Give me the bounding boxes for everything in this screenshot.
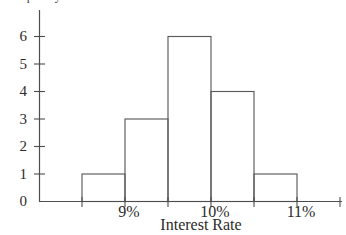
histogram-bar: [168, 37, 211, 202]
plot-area: 01234569%10%11%: [0, 0, 346, 235]
histogram-bar: [125, 119, 168, 202]
x-axis-tick-label: 11%: [287, 203, 316, 220]
x-axis-tick-label: 9%: [118, 203, 139, 220]
y-axis-tick-label: 3: [20, 111, 28, 127]
y-axis-tick-label: 6: [20, 28, 28, 44]
y-axis-tick-label: 1: [20, 166, 28, 182]
y-axis-tick-label: 0: [20, 193, 28, 209]
y-axis-tick-label: 2: [20, 138, 28, 154]
histogram-chart: Frequency 01234569%10%11% Interest Rate: [0, 0, 346, 235]
y-axis-tick-label: 4: [20, 83, 28, 99]
histogram-bar: [211, 92, 254, 202]
y-axis-tick-label: 5: [20, 56, 28, 72]
x-axis-label: Interest Rate: [160, 218, 241, 232]
histogram-bar: [82, 174, 125, 202]
histogram-bar: [254, 174, 297, 202]
